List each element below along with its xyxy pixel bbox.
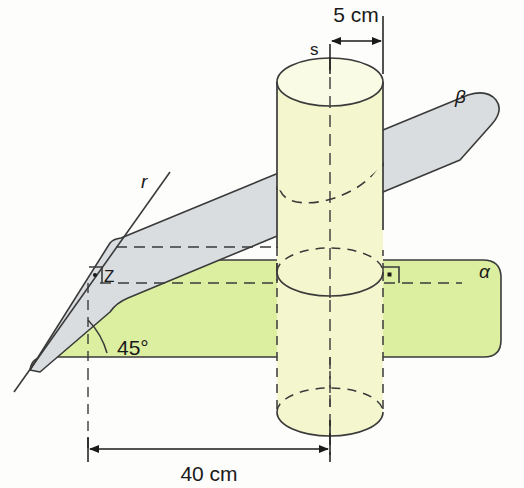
dimension-bottom-label: 40 cm	[180, 462, 237, 485]
point-s-label: s	[310, 40, 319, 59]
line-r-label: r	[141, 171, 148, 192]
geometry-figure: r 45° Z	[0, 0, 524, 488]
angle-45-label: 45°	[117, 336, 149, 359]
point-z-label: Z	[104, 267, 114, 286]
dimension-top-label: 5 cm	[333, 3, 379, 26]
plane-beta-label: β	[454, 86, 466, 107]
plane-alpha-label: α	[479, 261, 491, 282]
diagram-canvas: r 45° Z	[0, 0, 524, 488]
point-s: s	[310, 40, 319, 59]
